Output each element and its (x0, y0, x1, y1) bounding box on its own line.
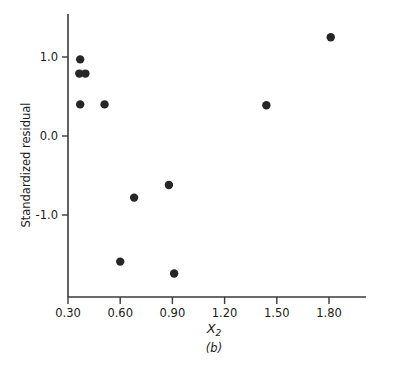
x-tick-label: 1.50 (264, 306, 290, 320)
data-point (165, 181, 173, 189)
x-tick-label: 0.90 (160, 306, 186, 320)
data-point (76, 55, 84, 63)
x-tick-label: 1.80 (316, 306, 342, 320)
panel-label: (b) (206, 341, 222, 355)
x-tick-label: 0.30 (55, 306, 81, 320)
data-point (327, 33, 335, 41)
y-tick-label: 0.0 (40, 129, 58, 143)
data-point (262, 101, 270, 109)
y-tick-group: 1.00.0-1.0 (36, 50, 68, 222)
data-point (100, 100, 108, 108)
data-point (170, 269, 178, 277)
data-point (76, 100, 84, 108)
x-tick-label: 1.20 (212, 306, 238, 320)
x-tick-group: 0.300.600.901.201.501.80 (55, 297, 342, 320)
y-tick-label: 1.0 (40, 50, 58, 64)
scatter-figure: 1.00.0-1.0 0.300.600.901.201.501.80 Stan… (0, 0, 396, 369)
y-axis-title: Standardized residual (19, 102, 33, 227)
y-tick-label: -1.0 (36, 208, 58, 222)
x-axis-title: X2 (206, 321, 222, 338)
x-axis-title-subscript: 2 (216, 328, 222, 338)
data-point-group (75, 33, 335, 278)
data-point (81, 69, 89, 77)
data-point (116, 257, 124, 265)
data-point (130, 193, 138, 201)
x-tick-label: 0.60 (107, 306, 133, 320)
scatter-plot-canvas: 1.00.0-1.0 0.300.600.901.201.501.80 Stan… (0, 0, 396, 369)
